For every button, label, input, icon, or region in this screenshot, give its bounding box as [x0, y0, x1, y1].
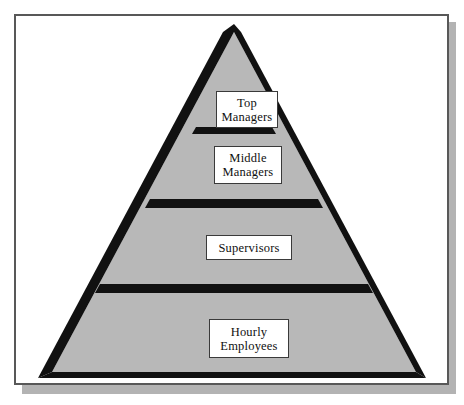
divider-band-middle-supervisors: [145, 199, 323, 208]
level-label-supervisors[interactable]: Supervisors: [206, 235, 292, 260]
level-label-top-managers[interactable]: Top Managers: [216, 91, 278, 128]
level-label-line: Hourly: [231, 325, 268, 339]
level-label-line: Managers: [222, 110, 273, 124]
level-label-line: Managers: [223, 165, 274, 179]
level-label-line: Top: [237, 96, 257, 110]
level-label-line: Employees: [220, 339, 277, 353]
divider-band-supervisors-hourly: [95, 284, 373, 293]
level-label-hourly-employees[interactable]: Hourly Employees: [209, 319, 289, 358]
divider-band-top-middle: [192, 127, 276, 134]
pyramid-diagram: Top Managers Middle Managers Supervisors…: [16, 16, 447, 383]
level-label-middle-managers[interactable]: Middle Managers: [214, 146, 282, 184]
figure-frame: Top Managers Middle Managers Supervisors…: [14, 14, 449, 385]
pyramid-apex: [223, 24, 241, 32]
pyramid-base-edge: [38, 372, 426, 378]
level-label-line: Middle: [229, 151, 266, 165]
level-label-line: Supervisors: [218, 241, 279, 255]
figure-page: Top Managers Middle Managers Supervisors…: [0, 0, 464, 405]
